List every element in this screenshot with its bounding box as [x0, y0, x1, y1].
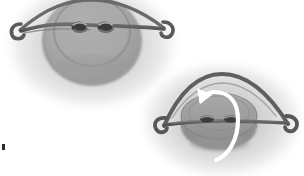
button-thread-diagram — [0, 0, 304, 176]
edge-speck — [2, 144, 5, 150]
front-button-shadow — [58, 54, 126, 74]
illustration-canvas: Button viewed face-on with taut looped t… — [0, 0, 304, 176]
spin-button-shadow — [189, 136, 249, 152]
figure-spin-view — [140, 61, 304, 176]
front-button-inner-disc — [56, 0, 128, 63]
